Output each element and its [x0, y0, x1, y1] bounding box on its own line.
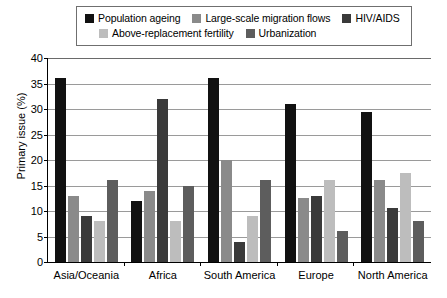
- legend-swatch-large-scale-migration-flows: [192, 14, 201, 23]
- y-tick-label-35: 35: [31, 78, 43, 90]
- bar: [298, 198, 309, 262]
- bar: [170, 221, 181, 262]
- bar: [131, 201, 142, 262]
- legend-item-population-ageing: Population ageing: [85, 13, 180, 24]
- legend-label-large-scale-migration-flows: Large-scale migration flows: [205, 13, 330, 24]
- y-tick-mark-0: [44, 262, 48, 263]
- legend-label-population-ageing: Population ageing: [98, 13, 180, 24]
- chart-legend: Population ageing Large-scale migration …: [76, 6, 412, 46]
- bar: [361, 112, 372, 262]
- bar: [374, 180, 385, 262]
- bar-group: Africa: [125, 58, 202, 262]
- legend-swatch-hiv-aids: [342, 14, 351, 23]
- legend-swatch-population-ageing: [85, 14, 94, 23]
- bar: [337, 231, 348, 262]
- bar: [311, 196, 322, 262]
- bar: [81, 216, 92, 262]
- bar: [247, 216, 258, 262]
- x-axis-label: Europe: [298, 269, 333, 281]
- y-tick-label-5: 5: [37, 231, 43, 243]
- bar: [208, 78, 219, 262]
- bar: [107, 180, 118, 262]
- x-axis-label: South America: [204, 269, 276, 281]
- legend-item-urbanization: Urbanization: [246, 28, 317, 39]
- bar: [234, 242, 245, 262]
- bar-groups: Asia/OceaniaAfricaSouth AmericaEuropeNor…: [48, 58, 431, 262]
- bar: [68, 196, 79, 262]
- bar: [260, 180, 271, 262]
- legend-item-hiv-aids: HIV/AIDS: [342, 13, 399, 24]
- y-tick-label-0: 0: [37, 256, 43, 268]
- legend-item-above-replacement-fertility: Above-replacement fertility: [99, 28, 234, 39]
- legend-row-1: Population ageing Large-scale migration …: [85, 11, 405, 26]
- bar: [285, 104, 296, 262]
- x-axis-label: North America: [358, 269, 428, 281]
- bar: [400, 173, 411, 262]
- x-axis-label: Asia/Oceania: [54, 269, 119, 281]
- bar: [183, 186, 194, 263]
- legend-label-above-replacement-fertility: Above-replacement fertility: [112, 28, 234, 39]
- x-axis-label: Africa: [149, 269, 177, 281]
- y-tick-label-40: 40: [31, 52, 43, 64]
- x-axis-tick: [353, 262, 354, 266]
- bar: [413, 221, 424, 262]
- legend-item-large-scale-migration-flows: Large-scale migration flows: [192, 13, 330, 24]
- bar: [387, 208, 398, 262]
- bar-group: South America: [201, 58, 278, 262]
- legend-label-urbanization: Urbanization: [259, 28, 317, 39]
- y-tick-label-25: 25: [31, 129, 43, 141]
- bar: [157, 99, 168, 262]
- bar-group: North America: [354, 58, 431, 262]
- x-axis-tick: [277, 262, 278, 266]
- legend-swatch-urbanization: [246, 29, 255, 38]
- bar: [221, 160, 232, 262]
- bar-chart: Population ageing Large-scale migration …: [0, 0, 447, 298]
- bar: [55, 78, 66, 262]
- y-tick-label-10: 10: [31, 205, 43, 217]
- y-tick-label-20: 20: [31, 154, 43, 166]
- y-tick-label-30: 30: [31, 103, 43, 115]
- bar: [94, 221, 105, 262]
- bar: [324, 180, 335, 262]
- y-axis-title: Primary issue (%): [15, 71, 27, 201]
- legend-swatch-above-replacement-fertility: [99, 29, 108, 38]
- plot-wrapper: Primary issue (%) 0510152025303540 Asia/…: [0, 52, 447, 298]
- bar-group: Asia/Oceania: [48, 58, 125, 262]
- bar: [144, 191, 155, 262]
- legend-row-2: Above-replacement fertility Urbanization: [85, 26, 405, 41]
- bar-group: Europe: [278, 58, 355, 262]
- y-tick-label-15: 15: [31, 180, 43, 192]
- x-axis-tick: [124, 262, 125, 266]
- legend-label-hiv-aids: HIV/AIDS: [355, 13, 399, 24]
- plot-area: 0510152025303540 Asia/OceaniaAfricaSouth…: [47, 58, 431, 263]
- x-axis-tick: [200, 262, 201, 266]
